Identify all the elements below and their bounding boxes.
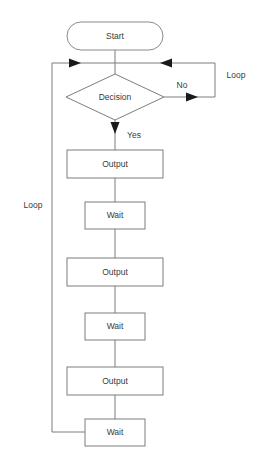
flowchart-svg: Start Decision Output Wait Output Wait [0,0,259,471]
node-start-label: Start [106,31,125,41]
node-output-1[interactable]: Output [67,150,163,178]
edge-label-no: No [177,80,188,90]
node-output-1-label: Output [102,159,128,169]
node-wait-2[interactable]: Wait [85,313,145,340]
node-wait-1-label: Wait [107,210,124,220]
edge-label-loop-right: Loop [227,70,246,80]
node-output-3-label: Output [102,376,128,386]
arrowhead-loop-right-into-merge [160,59,172,68]
edge-label-loop-left: Loop [24,200,43,210]
arrowhead-no-branch [186,93,198,102]
edge-label-yes: Yes [127,130,141,140]
node-wait-2-label: Wait [107,321,124,331]
flowchart-canvas: Start Decision Output Wait Output Wait [0,0,259,471]
node-output-2[interactable]: Output [67,258,163,286]
node-decision[interactable]: Decision [66,74,164,120]
node-start[interactable]: Start [67,22,163,50]
node-output-2-label: Output [102,267,128,277]
node-output-3[interactable]: Output [67,367,163,395]
node-wait-3[interactable]: Wait [85,419,145,446]
node-wait-3-label: Wait [107,427,124,437]
node-decision-label: Decision [99,92,132,102]
arrowhead-loop-left-into-merge [69,59,81,68]
arrowhead-yes-branch [111,122,120,134]
node-wait-1[interactable]: Wait [85,202,145,229]
